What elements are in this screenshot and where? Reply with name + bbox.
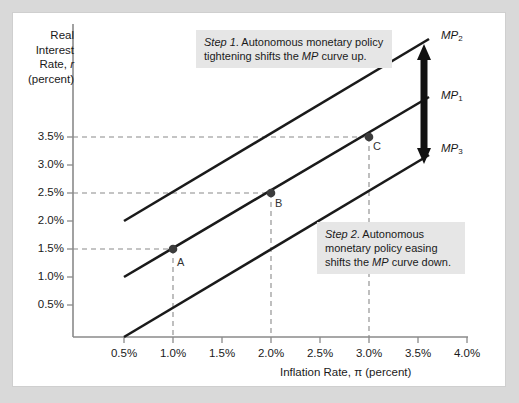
x-tick-label-3p5: 3.5% — [393, 347, 443, 359]
y-tick-label-1p5: 1.5% — [18, 242, 64, 254]
figure-panel — [13, 13, 505, 386]
y-tick-label-3p5: 3.5% — [18, 130, 64, 142]
y-axis-title: Real Interest Rate, r (percent) — [22, 28, 74, 86]
y-axis-title-variable-r: r — [70, 58, 74, 70]
step-1-callout: Step 1. Autonomous monetary policy tight… — [196, 30, 392, 68]
x-tick-label-2p0: 2.0% — [246, 347, 296, 359]
data-point-label-b: B — [275, 197, 282, 209]
curve-label-mp2-sub: 2 — [458, 34, 462, 43]
y-tick-label-1p0: 1.0% — [18, 270, 64, 282]
curve-label-mp2: MP2 — [441, 29, 463, 41]
x-tick-label-3p0: 3.0% — [344, 347, 394, 359]
figure-root: Real Interest Rate, r (percent) 3.5% 3.0… — [0, 0, 519, 403]
step-2-text-b: curve down. — [389, 256, 451, 268]
curve-label-mp1: MP1 — [441, 89, 463, 101]
x-tick-label-1p5: 1.5% — [197, 347, 247, 359]
y-tick-label-2p0: 2.0% — [18, 214, 64, 226]
step-1-text-b: curve up. — [318, 50, 366, 62]
curve-label-mp3-base: MP — [441, 142, 458, 154]
curve-label-mp3-sub: 3 — [458, 147, 462, 156]
data-point-label-c: C — [373, 140, 381, 152]
step-1-prefix: Step 1 — [204, 36, 236, 48]
data-point-label-a: A — [177, 256, 184, 268]
step-2-callout: Step 2. Autonomous monetary policy easin… — [317, 222, 465, 274]
y-axis-title-line-2: Interest — [36, 44, 74, 56]
step-2-mp-italic: MP — [372, 256, 389, 268]
x-tick-label-0p5: 0.5% — [99, 347, 149, 359]
x-tick-label-2p5: 2.5% — [295, 347, 345, 359]
y-tick-label-3p0: 3.0% — [18, 158, 64, 170]
step-2-prefix: Step 2 — [325, 228, 357, 240]
y-axis-title-line-3-prefix: Rate, — [39, 58, 70, 70]
y-axis-title-line-4: (percent) — [28, 73, 74, 85]
curve-label-mp2-base: MP — [441, 29, 458, 41]
curve-label-mp1-sub: 1 — [458, 94, 462, 103]
x-tick-label-4p0: 4.0% — [442, 347, 492, 359]
curve-label-mp1-base: MP — [441, 89, 458, 101]
curve-label-mp3: MP3 — [441, 142, 463, 154]
x-tick-label-1p0: 1.0% — [148, 347, 198, 359]
x-axis-title: Inflation Rate, π (percent) — [280, 366, 411, 378]
y-tick-label-0p5: 0.5% — [18, 298, 64, 310]
y-tick-label-2p5: 2.5% — [18, 186, 64, 198]
y-axis-title-line-1: Real — [50, 29, 74, 41]
step-1-mp-italic: MP — [302, 50, 319, 62]
